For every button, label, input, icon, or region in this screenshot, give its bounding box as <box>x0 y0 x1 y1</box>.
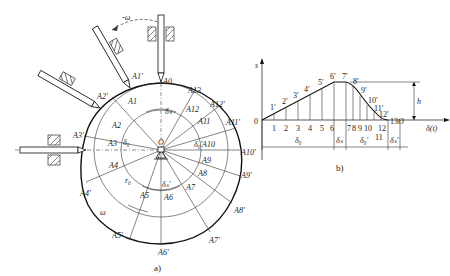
svg-text:A12′: A12′ <box>209 100 225 109</box>
near-dwell-angle-label: δₛ′ <box>162 180 171 189</box>
svg-text:A6′: A6′ <box>157 248 169 257</box>
dwell-angle-label: δₛ <box>165 107 173 116</box>
svg-text:A5′: A5′ <box>111 231 123 240</box>
svg-text:A9: A9 <box>201 156 211 165</box>
x-axis-label: δ(t) <box>426 124 438 133</box>
diagram-canvas: -ω ω O r₀ δ₀ δₛ δ₀′ δₛ′ A0 A1 A2 A3 A4 A… <box>0 0 450 276</box>
svg-text:A4′: A4′ <box>79 189 91 198</box>
svg-text:6: 6 <box>330 124 334 133</box>
svg-text:A4: A4 <box>108 161 118 170</box>
radial-lines <box>84 88 240 244</box>
svg-text:7: 7 <box>347 124 351 133</box>
svg-text:10: 10 <box>364 124 372 133</box>
svg-text:A6: A6 <box>163 193 173 202</box>
svg-text:A3: A3 <box>107 139 117 148</box>
rise-angle-label: δ₀ <box>123 138 130 147</box>
base-radius-label: r₀ <box>125 176 131 185</box>
caption-b: b) <box>336 163 344 173</box>
svg-text:4: 4 <box>308 124 312 133</box>
x-tick-labels: 1 2 3 4 5 6 7 8 9 10 12 11 <box>272 124 386 142</box>
svg-text:A8′: A8′ <box>233 206 245 215</box>
svg-text:A13: A13 <box>187 86 201 95</box>
svg-text:A7′: A7′ <box>208 236 220 245</box>
svg-text:9′: 9′ <box>361 86 367 95</box>
h-label: h <box>417 97 421 106</box>
svg-text:A11: A11 <box>197 117 210 126</box>
svg-text:A3′: A3′ <box>72 131 84 140</box>
svg-text:1: 1 <box>272 124 276 133</box>
origin-label: 0 <box>254 117 258 126</box>
svg-text:A1′: A1′ <box>131 72 143 81</box>
svg-text:3: 3 <box>296 124 300 133</box>
omega-label: ω <box>100 208 106 217</box>
svg-text:11: 11 <box>375 133 383 142</box>
svg-text:4′: 4′ <box>304 85 310 94</box>
svg-text:A1: A1 <box>127 97 137 106</box>
svg-text:1′: 1′ <box>270 103 276 112</box>
svg-text:9: 9 <box>358 124 362 133</box>
svg-text:3′: 3′ <box>293 91 299 100</box>
svg-text:A0: A0 <box>162 77 172 86</box>
svg-text:13: 13 <box>390 117 398 126</box>
svg-text:2: 2 <box>284 124 288 133</box>
svg-text:5′: 5′ <box>318 78 324 87</box>
cam-figure: -ω ω O r₀ δ₀ δₛ δ₀′ δₛ′ A0 A1 A2 A3 A4 A… <box>15 13 256 273</box>
svg-text:A12: A12 <box>185 105 199 114</box>
rotation-arrow-top <box>112 19 158 30</box>
profile-point-labels: A1′ A2′ A3′ A4′ A5′ A6′ A7′ A8′ A9′ A10′… <box>72 72 256 257</box>
svg-text:2′: 2′ <box>282 97 288 106</box>
svg-text:A10: A10 <box>201 140 215 149</box>
center-label: O <box>158 138 164 147</box>
follower-A2 <box>38 62 107 111</box>
follower-vertical <box>148 15 174 82</box>
svg-text:A11′: A11′ <box>225 118 240 127</box>
svg-text:12: 12 <box>378 124 386 133</box>
cam-profile-diagram: -ω ω O r₀ δ₀ δₛ δ₀′ δₛ′ A0 A1 A2 A3 A4 A… <box>0 0 450 276</box>
svg-text:A8: A8 <box>197 169 207 178</box>
svg-text:7′: 7′ <box>342 72 348 81</box>
svg-text:12′: 12′ <box>379 110 389 119</box>
svg-text:A9′: A9′ <box>240 171 252 180</box>
omega-neg-label: -ω <box>122 13 131 22</box>
svg-text:A2: A2 <box>111 121 121 130</box>
dwell-segment-label: δₛ <box>336 136 344 145</box>
caption-a: a) <box>154 263 161 273</box>
arrow-head-icon <box>112 25 118 31</box>
svg-text:A2′: A2′ <box>96 92 108 101</box>
near-dwell-segment-label: δₛ′ <box>390 136 399 145</box>
end-label: O <box>398 117 404 126</box>
displacement-figure: h s δ(t) 0 O 1′ 2′ 3′ 4′ 5′ 6′ 7′ 8′ 9′ … <box>254 58 450 173</box>
rise-segment-label: δ₀ <box>295 136 302 145</box>
svg-text:6′: 6′ <box>330 72 336 81</box>
y-axis-label: s <box>255 61 258 70</box>
svg-text:8′: 8′ <box>353 77 359 86</box>
svg-text:8: 8 <box>352 124 356 133</box>
svg-text:A5: A5 <box>139 191 149 200</box>
return-segment-label: δ₀′ <box>360 136 369 145</box>
svg-text:5: 5 <box>320 124 324 133</box>
svg-text:A10′: A10′ <box>240 148 256 157</box>
svg-text:A7: A7 <box>185 183 196 192</box>
rotation-arc <box>128 205 148 212</box>
